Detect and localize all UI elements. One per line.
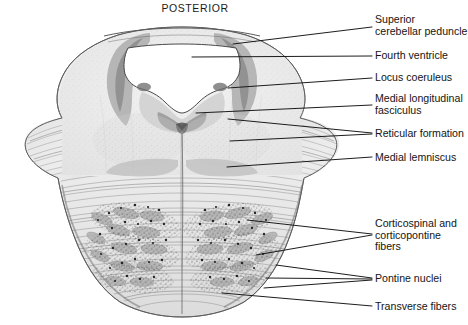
leader-medial-lemniscus (227, 157, 372, 167)
anatomical-figure: POSTERIOR Superior cerebellar peduncle F… (0, 0, 468, 325)
leader-reticular-formation-lower (230, 134, 372, 141)
label-superior-cerebellar-peduncle: Superior cerebellar peduncle (375, 14, 467, 37)
label-corticospinal-and-corticopontine-fibers: Corticospinal and corticopontine fibers (375, 218, 457, 253)
leader-transverse-fibers (222, 293, 372, 306)
label-reticular-formation: Reticular formation (375, 128, 464, 140)
leader-reticular-formation-upper (228, 119, 372, 133)
label-transverse-fibers: Transverse fibers (375, 301, 456, 313)
leader-pontine-nuclei-a (276, 265, 372, 278)
label-fourth-ventricle: Fourth ventricle (375, 50, 448, 62)
leader-locus-coeruleus (228, 78, 372, 88)
leader-pontine-nuclei-c (264, 280, 372, 288)
label-pontine-nuclei: Pontine nuclei (375, 273, 442, 285)
label-locus-coeruleus: Locus coeruleus (375, 72, 452, 84)
leader-superior-cerebellar-peduncle (233, 27, 372, 44)
label-medial-longitudinal-fasciculus: Medial longitudinal fasciculus (375, 93, 463, 116)
label-medial-lemniscus: Medial lemniscus (375, 152, 456, 164)
leader-corticospinal-upper (247, 220, 372, 234)
leader-corticospinal-lower (256, 235, 372, 255)
leader-pontine-nuclei-b (266, 278, 372, 279)
leader-medial-longitudinal-fasciculus (196, 105, 372, 113)
orientation-title: POSTERIOR (0, 2, 390, 14)
leader-fourth-ventricle (192, 56, 372, 57)
